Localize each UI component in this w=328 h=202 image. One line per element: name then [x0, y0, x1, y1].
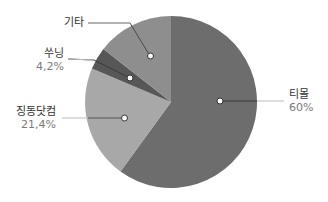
label-suning-name: 쑤닝 — [36, 47, 64, 60]
label-other-name: 기타 — [64, 16, 84, 29]
label-jd-pct: 21,4% — [16, 118, 56, 131]
label-tmall: 티몰 60% — [289, 88, 313, 114]
label-suning: 쑤닝 4,2% — [36, 47, 64, 73]
pie-chart — [0, 0, 328, 202]
marker-jd — [122, 115, 128, 121]
marker-other — [148, 53, 154, 59]
label-jd: 징동닷컴 21,4% — [16, 105, 56, 131]
label-suning-pct: 4,2% — [36, 60, 64, 73]
marker-tmall — [217, 98, 223, 104]
marker-suning — [127, 75, 133, 81]
label-jd-name: 징동닷컴 — [16, 105, 56, 118]
label-tmall-name: 티몰 — [289, 88, 313, 101]
label-other: 기타 — [64, 16, 84, 29]
label-tmall-pct: 60% — [289, 101, 313, 114]
leader-line-suning-outer — [68, 59, 94, 60]
